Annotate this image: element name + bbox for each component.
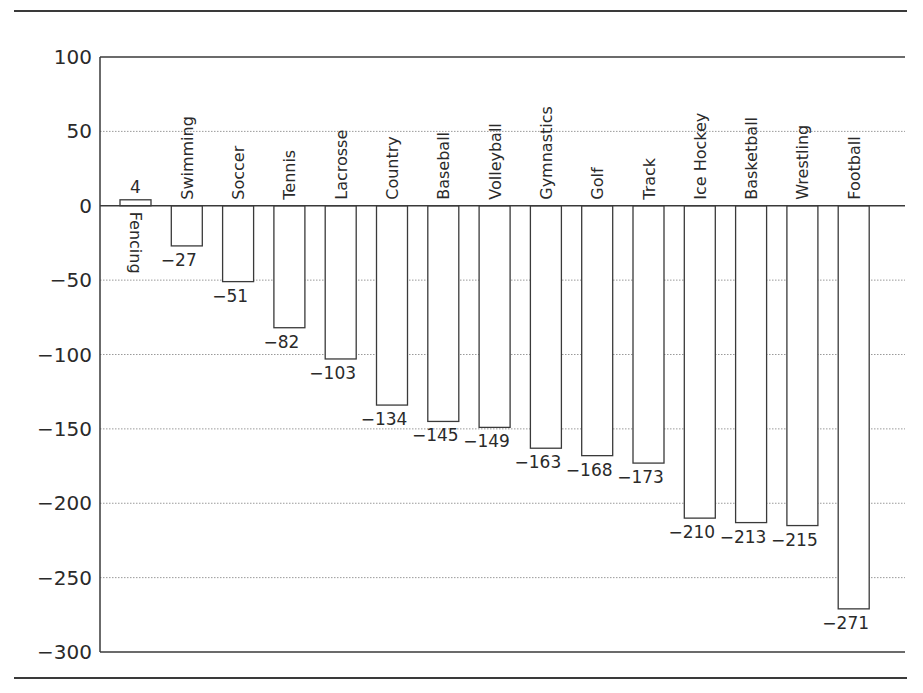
y-tick-label: −300 — [37, 640, 92, 664]
value-label: −173 — [617, 467, 664, 487]
category-label: Fencing — [126, 212, 145, 274]
y-tick-label: −250 — [37, 566, 92, 590]
category-label: Football — [845, 136, 864, 199]
y-tick-label: 50 — [67, 119, 92, 143]
bar-baseball: −145Baseball — [412, 132, 459, 446]
y-tick-label: −150 — [37, 417, 92, 441]
bar-golf: −168Golf — [566, 167, 613, 480]
bar-soccer: −51Soccer — [212, 145, 253, 305]
bar-gymnastics: −163Gymnastics — [515, 106, 562, 472]
category-label: Basketball — [742, 117, 761, 200]
bar-swimming: −27Swimming — [161, 116, 202, 270]
bar-fencing: 4Fencing — [120, 177, 151, 274]
category-label: Ice Hockey — [691, 113, 710, 200]
value-label: −149 — [463, 431, 510, 451]
value-label: −210 — [668, 522, 715, 542]
y-tick-label: −50 — [50, 268, 92, 292]
y-tick-label: 0 — [79, 194, 92, 218]
category-label: Swimming — [178, 116, 197, 200]
category-label: Track — [640, 157, 659, 201]
bar-wrestling: −215Wrestling — [771, 125, 818, 550]
bar-track: −173Track — [617, 157, 664, 487]
bar-football: −271Football — [822, 136, 869, 632]
value-label: −215 — [771, 530, 818, 550]
category-label: Baseball — [434, 132, 453, 200]
category-label: Wrestling — [793, 125, 812, 200]
category-label: Volleyball — [486, 123, 505, 200]
value-label: 4 — [130, 177, 141, 197]
value-label: −213 — [720, 527, 767, 547]
bar-chart: 100500−50−100−150−200−250−300 4Fencing−2… — [0, 0, 923, 693]
category-label: Tennis — [280, 150, 299, 201]
value-label: −168 — [566, 460, 613, 480]
value-label: −51 — [212, 286, 248, 306]
y-axis: 100500−50−100−150−200−250−300 — [37, 45, 92, 664]
category-label: Soccer — [229, 145, 248, 199]
value-label: −103 — [309, 363, 356, 383]
value-label: −82 — [263, 332, 299, 352]
y-tick-label: −200 — [37, 491, 92, 515]
value-label: −271 — [822, 613, 869, 633]
category-label: Golf — [588, 167, 607, 200]
bar-tennis: −82Tennis — [263, 150, 304, 352]
category-label: Gymnastics — [537, 106, 556, 200]
bar-basketball: −213Basketball — [720, 117, 767, 547]
bar-lacrosse: −103Lacrosse — [309, 130, 356, 383]
category-label: Lacrosse — [332, 130, 351, 200]
value-label: −134 — [361, 409, 408, 429]
value-label: −27 — [161, 250, 197, 270]
bar-volleyball: −149Volleyball — [463, 123, 510, 451]
bar-country: −134Country — [361, 136, 408, 429]
y-tick-label: 100 — [54, 45, 92, 69]
bars: 4Fencing−27Swimming−51Soccer−82Tennis−10… — [120, 106, 869, 633]
value-label: −145 — [412, 425, 459, 445]
bar-ice-hockey: −210Ice Hockey — [668, 113, 715, 542]
category-label: Country — [383, 136, 402, 200]
y-tick-label: −100 — [37, 343, 92, 367]
value-label: −163 — [515, 452, 562, 472]
